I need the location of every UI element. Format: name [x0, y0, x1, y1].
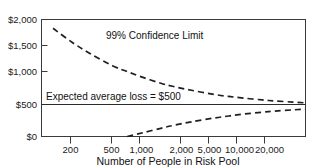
confidence-limit-annotation: 99% Confidence Limit: [106, 30, 203, 41]
x-tick-label-5000: 5,000: [198, 144, 222, 155]
x-tick-label-10000: 10,000: [225, 144, 254, 155]
x-tick-label-500: 500: [104, 144, 120, 155]
risk-pool-confidence-chart: $2,000 $1,500 $1,000 $500 $0 200 500 1,0…: [0, 0, 312, 168]
y-tick-label-1500: $1,500: [8, 40, 37, 51]
x-tick-label-1000: 1,000: [130, 144, 154, 155]
y-tick-label-500: $500: [16, 99, 37, 110]
x-axis-title: Number of People in Risk Pool: [97, 155, 240, 167]
x-tick-label-20000: 20,000: [255, 144, 284, 155]
chart-background: [0, 0, 312, 168]
chart-figure: $2,000 $1,500 $1,000 $500 $0 200 500 1,0…: [0, 0, 312, 168]
expected-loss-annotation: Expected average loss = $500: [46, 91, 181, 102]
y-tick-label-2000: $2,000: [8, 14, 37, 25]
y-tick-label-0: $0: [26, 131, 37, 142]
y-tick-label-1000: $1,000: [8, 66, 37, 77]
x-tick-label-2000: 2,000: [170, 144, 194, 155]
x-tick-label-200: 200: [63, 144, 79, 155]
